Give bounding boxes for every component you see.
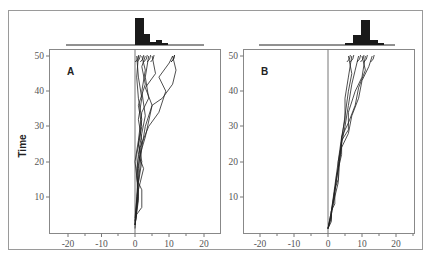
trajectory-line (328, 56, 352, 229)
svg-text:30: 30 (229, 121, 239, 131)
svg-text:20: 20 (35, 157, 45, 167)
histogram-b (345, 20, 384, 45)
x-ticks-a (68, 234, 204, 238)
svg-text:20: 20 (199, 239, 209, 249)
x-ticks-b (260, 234, 413, 238)
panel-label-a: A (67, 66, 74, 77)
svg-text:-20: -20 (254, 239, 267, 249)
y-ticks-b (240, 56, 244, 197)
svg-text:50: 50 (229, 51, 239, 61)
trajectories-a (135, 55, 176, 229)
y-tick-labels-a: 50 40 30 20 10 (35, 51, 45, 202)
random-walk-figure: Time -20 -10 0 (0, 0, 433, 261)
x-tick-labels-b: -20 -10 0 10 20 (254, 239, 401, 249)
trajectory-line (328, 56, 352, 229)
svg-text:10: 10 (229, 192, 239, 202)
svg-text:10: 10 (164, 239, 174, 249)
trajectories-b (328, 55, 374, 229)
svg-text:-10: -10 (288, 239, 301, 249)
svg-text:20: 20 (391, 239, 401, 249)
panel-b: -20 -10 0 10 20 50 40 30 20 10 B (229, 20, 415, 249)
svg-text:0: 0 (133, 239, 138, 249)
y-axis-label: Time (17, 134, 28, 158)
svg-text:20: 20 (229, 157, 239, 167)
histogram-a (135, 18, 168, 45)
svg-text:0: 0 (326, 239, 331, 249)
panel-a: -20 -10 0 10 20 50 40 30 20 10 A (35, 18, 221, 249)
svg-text:10: 10 (35, 192, 45, 202)
svg-text:-10: -10 (95, 239, 108, 249)
svg-text:40: 40 (35, 86, 45, 96)
svg-text:30: 30 (35, 121, 45, 131)
x-tick-labels-a: -20 -10 0 10 20 (62, 239, 209, 249)
svg-text:40: 40 (229, 86, 239, 96)
y-ticks-a (46, 56, 50, 197)
panel-label-b: B (261, 66, 268, 77)
svg-text:-20: -20 (62, 239, 75, 249)
y-tick-labels-b: 50 40 30 20 10 (229, 51, 239, 202)
svg-text:10: 10 (357, 239, 367, 249)
svg-text:50: 50 (35, 51, 45, 61)
plot-area-b (244, 50, 415, 234)
